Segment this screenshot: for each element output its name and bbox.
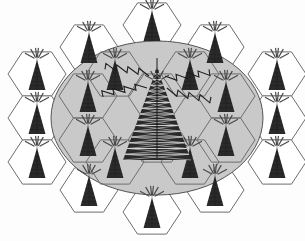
cellular-network-diagram: Cellular network hexagonal cell layout w… [0, 0, 305, 241]
diagram-canvas: Cellular network hexagonal cell layout w… [0, 0, 305, 241]
